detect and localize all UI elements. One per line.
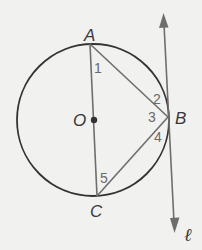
angle-label-2: 2 [153, 92, 161, 106]
arrow-down-icon [170, 218, 180, 234]
label-point-b: B [175, 110, 186, 127]
label-point-a: A [84, 27, 95, 44]
center-point-o [91, 117, 97, 123]
angle-label-5: 5 [100, 171, 108, 185]
arrow-up-icon [159, 13, 169, 28]
label-point-o: O [73, 112, 86, 129]
angle-label-3: 3 [148, 110, 156, 124]
label-tangent-l: ℓ [184, 226, 192, 244]
angle-label-1: 1 [94, 61, 102, 75]
label-point-c: C [90, 203, 102, 220]
angle-label-4: 4 [154, 130, 162, 144]
tangent-line [164, 24, 174, 222]
